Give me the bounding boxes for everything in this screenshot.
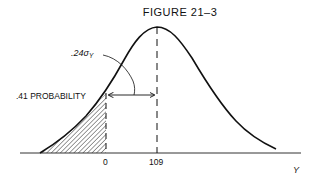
x-axis-label: Y: [293, 165, 299, 175]
probability-annotation: .41 PROBABILITY: [16, 91, 86, 101]
sigma-leader-arc: [103, 55, 135, 95]
sigma-annotation-text: .24σ: [71, 48, 89, 58]
x-tick-zero: 0: [103, 157, 108, 167]
figure-title: FIGURE 21–3: [120, 6, 240, 18]
distribution-plot: [0, 0, 313, 180]
shaded-tail-region: [40, 93, 106, 153]
normal-distribution-figure: FIGURE 21–3 .24σY .41 PROBABILITY 0 109 …: [0, 0, 313, 180]
sigma-annotation: .24σY: [71, 48, 93, 59]
sigma-subscript: Y: [89, 52, 93, 59]
x-tick-mean: 109: [149, 157, 163, 167]
